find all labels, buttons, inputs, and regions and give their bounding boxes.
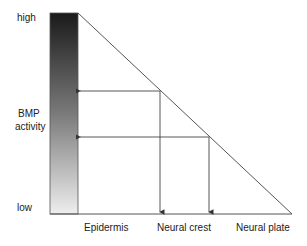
- category-label-epidermis: Epidermis: [84, 222, 128, 234]
- bmp-gradient-bar: [50, 13, 78, 214]
- category-label-neural-crest: Neural crest: [157, 222, 211, 234]
- bmp-gradient-diagram: [0, 0, 307, 246]
- gradient-slope-line: [78, 13, 292, 214]
- axis-label-low: low: [17, 202, 32, 214]
- axis-label-high: high: [17, 12, 36, 24]
- axis-label-bmp: BMP: [18, 108, 40, 120]
- axis-label-activity: activity: [15, 121, 46, 133]
- category-label-neural-plate: Neural plate: [236, 222, 290, 234]
